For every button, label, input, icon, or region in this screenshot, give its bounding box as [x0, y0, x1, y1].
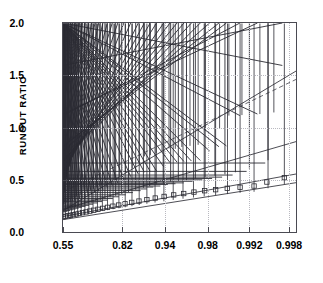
x-tick-label: 0.94 — [155, 239, 175, 251]
y-tick-label: 0.0 — [9, 226, 24, 238]
y-tick-label: 2.0 — [9, 17, 24, 29]
x-tick-label: 0.998 — [276, 239, 302, 251]
chart-figure: RUNOUT RATIO 0.550.820.940.980.9920.9980… — [0, 0, 323, 283]
marker-cross — [63, 23, 170, 163]
x-tick-label: 0.992 — [236, 239, 262, 251]
y-gridline — [63, 75, 296, 76]
x-tick — [249, 227, 250, 232]
y-tick-label: 0.5 — [9, 174, 24, 186]
plot-area — [62, 22, 297, 233]
x-tick-label: 0.98 — [197, 239, 217, 251]
y-tick — [63, 232, 68, 233]
y-gridline — [63, 180, 296, 181]
y-gridline — [63, 128, 296, 129]
y-tick — [63, 23, 68, 24]
x-tick — [122, 227, 123, 232]
y-tick-label: 1.0 — [9, 122, 24, 134]
x-tick-label: 0.55 — [53, 239, 73, 251]
y-tick — [63, 75, 68, 76]
x-tick — [208, 227, 209, 232]
x-tick-label: 0.82 — [112, 239, 132, 251]
y-tick — [63, 180, 68, 181]
x-tick — [289, 227, 290, 232]
y-tick-label: 1.5 — [9, 69, 24, 81]
y-tick — [63, 128, 68, 129]
x-tick — [165, 227, 166, 232]
